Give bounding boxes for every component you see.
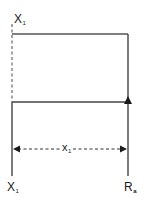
- span-arrow-left-icon: [13, 146, 20, 153]
- span-label: x1: [60, 142, 73, 154]
- reaction-arrow-icon: [124, 96, 132, 104]
- top-left-label-main: X: [14, 12, 22, 26]
- bottom-left-label-main: X: [7, 180, 15, 194]
- bottom-right-label-main: R: [124, 180, 133, 194]
- beam-diagram: [0, 0, 144, 206]
- bottom-right-label: Ra: [124, 181, 137, 194]
- top-left-label-sub: 1: [23, 20, 26, 26]
- bottom-left-label-sub: 1: [16, 188, 19, 194]
- span-label-main: x: [62, 141, 68, 153]
- span-arrow-right-icon: [120, 146, 127, 153]
- bottom-right-label-sub: a: [133, 188, 136, 194]
- span-label-sub: 1: [68, 148, 71, 154]
- top-left-label: X1: [14, 13, 26, 26]
- bottom-left-label: X1: [7, 181, 19, 194]
